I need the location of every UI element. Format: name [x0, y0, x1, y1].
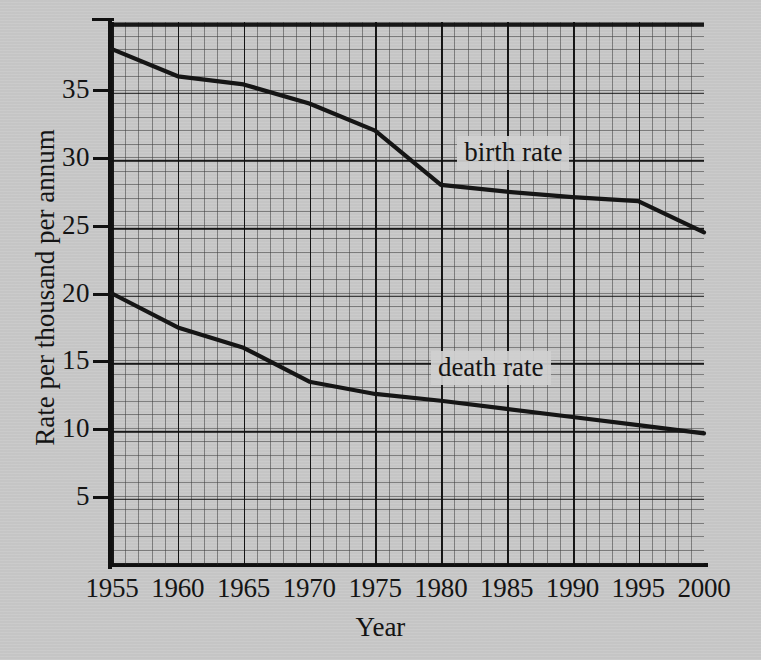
- series-annotation-birth-rate: birth rate: [457, 136, 569, 170]
- y-tick-10: 10: [0, 415, 90, 442]
- y-tick-35: 35: [0, 76, 90, 103]
- y-tick-5: 5: [0, 483, 90, 510]
- y-tick-20: 20: [0, 280, 90, 307]
- x-tick-label-1980: 1980: [404, 572, 478, 604]
- x-axis-ticks: 1955196019651970197519801985199019952000: [0, 572, 761, 608]
- x-tick-label-1960: 1960: [141, 572, 215, 604]
- x-tick-label-1965: 1965: [207, 572, 281, 604]
- y-tick-30: 30: [0, 144, 90, 171]
- chart-page: Rate per thousand per annum 510152025303…: [0, 0, 761, 660]
- x-tick-label-1970: 1970: [272, 572, 346, 604]
- x-tick-label-1995: 1995: [601, 572, 675, 604]
- x-tick-label-1985: 1985: [470, 572, 544, 604]
- x-tick-label-1955: 1955: [75, 572, 149, 604]
- y-tick-label: 20: [38, 280, 90, 307]
- series-line-death-rate: [112, 294, 704, 434]
- x-tick-label-2000: 2000: [667, 572, 741, 604]
- series-annotation-death-rate: death rate: [431, 351, 551, 385]
- y-tick-label: 30: [38, 144, 90, 171]
- y-tick-label: 5: [38, 483, 90, 510]
- series-layer: [112, 22, 704, 565]
- x-tick-label-1990: 1990: [535, 572, 609, 604]
- x-axis-label: Year: [0, 612, 761, 643]
- series-line-birth-rate: [112, 49, 704, 232]
- x-tick-label-1975: 1975: [338, 572, 412, 604]
- y-tick-label: 25: [38, 212, 90, 239]
- y-tick-label: 10: [38, 415, 90, 442]
- y-tick-15: 15: [0, 347, 90, 374]
- y-tick-label: 35: [38, 76, 90, 103]
- plot-area: [112, 22, 704, 565]
- y-tick-25: 25: [0, 212, 90, 239]
- y-tick-label: 15: [38, 347, 90, 374]
